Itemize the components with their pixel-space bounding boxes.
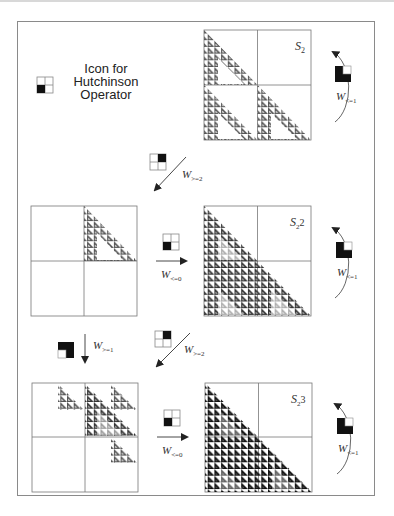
- loop-label-top: W<=1: [336, 90, 357, 105]
- arrow-label-mid-horizontal: W<=0: [161, 268, 182, 283]
- loop-arrow-top: W<=1: [333, 52, 357, 122]
- arrow-w-ge1: W>=1: [58, 334, 114, 362]
- loop-label-bottom: W<=1: [338, 442, 359, 457]
- arrow-w-ge2-top: W>=2: [150, 154, 203, 190]
- loop-arrow-mid: W<=1: [333, 228, 358, 298]
- arrow-w-le0-bottom: W<=0: [157, 410, 187, 459]
- arrow-w-ge2-bottom: W>=2: [155, 331, 205, 366]
- panel-w-ge1: [32, 383, 138, 492]
- arrow-label-bottom-diag: W>=2: [184, 343, 205, 358]
- hutchinson-operator-icon: [37, 77, 53, 93]
- arrow-label-top-diag: W>=2: [182, 168, 203, 183]
- panel-s2-squared: S22: [204, 206, 311, 316]
- arrow-w-le0-mid: W<=0: [156, 234, 186, 283]
- arrow-label-bottom-down: W>=1: [93, 339, 114, 354]
- loop-label-mid: W<=1: [337, 266, 358, 281]
- loop-arrow-bottom: W<=1: [335, 404, 359, 474]
- arrow-label-bottom-horizontal: W<=0: [162, 444, 183, 459]
- panel-s2-cubed: S23: [205, 383, 312, 492]
- panel-s2: S2: [204, 30, 311, 140]
- panel-w-ge2: [31, 206, 137, 316]
- diagram-canvas: S2 W<=1 W>=2 W<=0: [0, 0, 394, 516]
